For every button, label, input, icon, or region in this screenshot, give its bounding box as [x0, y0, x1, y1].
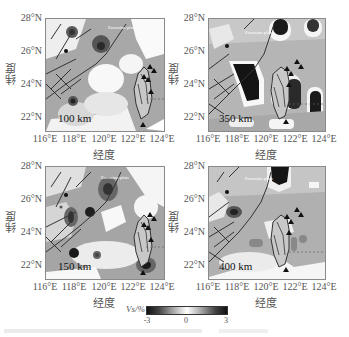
ytick-26n: 26°N [8, 194, 42, 204]
plate-label: Eurasian plate [108, 25, 137, 30]
xtick-116e: 116°E [33, 134, 58, 144]
colorbar [146, 306, 228, 315]
xtick-120e: 120°E [91, 282, 116, 292]
xtick-118e: 118°E [62, 134, 87, 144]
y-axis-label: 纬度 [3, 211, 19, 233]
depth-label-100km: 100 km [58, 112, 91, 124]
tomography-map-400km: Eurasian plate 400 km [208, 166, 326, 280]
ytick-26n: 26°N [171, 46, 205, 56]
ytick-28n: 28°N [8, 161, 42, 171]
ytick-26n: 26°N [171, 194, 205, 204]
colorbar-tick-max: 3 [224, 316, 228, 325]
tomography-map-350km: Eurasian plate 350 km [208, 18, 326, 132]
xtick-116e: 116°E [196, 134, 221, 144]
ytick-22n: 22°N [8, 112, 42, 122]
xtick-122e: 122°E [120, 282, 145, 292]
tomography-map-150km: Eurasian plate 150 km [45, 166, 165, 280]
plate-label: Eurasian plate [245, 30, 274, 35]
x-axis-label: 经度 [93, 294, 115, 310]
xtick-118e: 118°E [225, 134, 250, 144]
xtick-116e: 116°E [196, 282, 221, 292]
y-axis-label: 纬度 [166, 63, 182, 85]
figure-caption [4, 329, 334, 333]
x-axis-label: 经度 [255, 294, 277, 310]
xtick-120e: 120°E [253, 282, 278, 292]
depth-label-400km: 400 km [219, 260, 252, 272]
xtick-116e: 116°E [33, 282, 58, 292]
xtick-122e: 122°E [120, 134, 145, 144]
x-axis-label: 经度 [255, 146, 277, 162]
ytick-22n: 22°N [171, 260, 205, 270]
xtick-124e: 124°E [311, 282, 336, 292]
ytick-28n: 28°N [8, 13, 42, 23]
xtick-122e: 122°E [282, 282, 307, 292]
tomography-map-100km: Eurasian plate 100 km [45, 18, 165, 132]
ytick-22n: 22°N [8, 260, 42, 270]
y-axis-label: 纬度 [3, 63, 19, 85]
ytick-26n: 26°N [8, 46, 42, 56]
depth-label-350km: 350 km [219, 112, 252, 124]
x-axis-label: 经度 [93, 146, 115, 162]
xtick-120e: 120°E [91, 134, 116, 144]
xtick-122e: 122°E [282, 134, 307, 144]
colorbar-tick-min: -3 [144, 316, 151, 325]
xtick-118e: 118°E [225, 282, 250, 292]
xtick-124e: 124°E [149, 282, 174, 292]
colorbar-label: Vs/% [126, 304, 145, 314]
xtick-120e: 120°E [253, 134, 278, 144]
ytick-28n: 28°N [171, 13, 205, 23]
colorbar-tick-zero: 0 [184, 316, 188, 325]
xtick-118e: 118°E [62, 282, 87, 292]
xtick-124e: 124°E [149, 134, 174, 144]
ytick-22n: 22°N [171, 112, 205, 122]
xtick-124e: 124°E [311, 134, 336, 144]
plate-label: Eurasian plate [101, 175, 130, 180]
depth-label-150km: 150 km [58, 260, 91, 272]
ytick-28n: 28°N [171, 161, 205, 171]
y-axis-label: 纬度 [166, 211, 182, 233]
plate-label: Eurasian plate [245, 176, 274, 181]
